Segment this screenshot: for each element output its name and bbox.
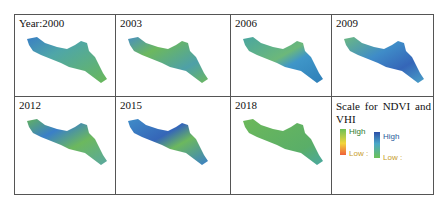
legend-panel: Scale for NDVI and VHI High Low : High L… [332, 97, 435, 194]
panel-label: Year:2000 [19, 17, 64, 29]
panel-label: 2012 [19, 99, 41, 111]
ndvi-low-label: Low : [349, 149, 368, 158]
map-2000 [23, 33, 109, 93]
vhi-low-label: Low : [383, 153, 402, 162]
panel-2018: 2018 [231, 97, 331, 194]
panel-2000: Year:2000 [15, 15, 115, 96]
panel-label: 2018 [235, 99, 257, 111]
figure-table: Year:2000 2003 2006 2009 2012 [14, 14, 434, 195]
map-2003 [124, 33, 210, 93]
vhi-color-ramp [374, 132, 380, 158]
map-2018 [239, 115, 325, 175]
ndvi-color-ramp [340, 129, 346, 155]
panel-label: 2003 [120, 17, 142, 29]
panel-2003: 2003 [116, 15, 230, 96]
map-2015 [124, 115, 210, 175]
panel-2009: 2009 [332, 15, 435, 96]
panel-label: 2009 [336, 17, 358, 29]
map-2012 [23, 115, 109, 175]
legend-title: Scale for NDVI and VHI [336, 100, 431, 126]
ndvi-high-label: High [349, 127, 365, 136]
panel-2015: 2015 [116, 97, 230, 194]
panel-2012: 2012 [15, 97, 115, 194]
panel-2006: 2006 [231, 15, 331, 96]
vhi-high-label: High [383, 132, 399, 141]
panel-label: 2006 [235, 17, 257, 29]
panel-label: 2015 [120, 99, 142, 111]
map-2009 [340, 33, 426, 93]
map-2006 [239, 33, 325, 93]
